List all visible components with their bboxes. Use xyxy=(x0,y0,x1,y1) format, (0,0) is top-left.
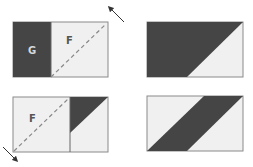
panel-bottom-left: F xyxy=(3,97,108,160)
label-g: G xyxy=(28,45,36,56)
fold-arrow-icon xyxy=(110,8,124,22)
label-f-top: F xyxy=(66,35,73,46)
label-f-bottom: F xyxy=(29,113,36,124)
panel-top-right xyxy=(147,22,243,77)
panel-bottom-right xyxy=(147,96,243,151)
panel-top-left: G F xyxy=(13,8,124,77)
fold-diagram: G F F xyxy=(0,0,253,167)
